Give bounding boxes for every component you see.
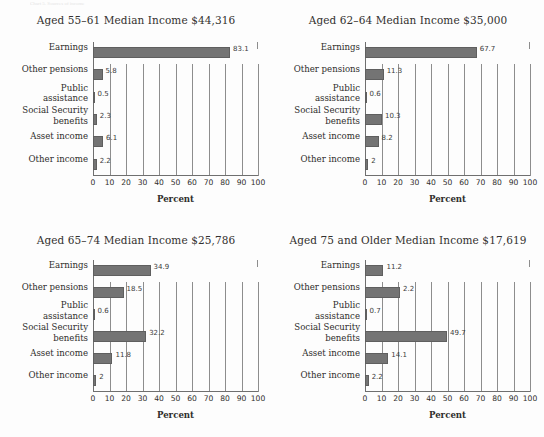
x-tick-label: 70 (204, 178, 214, 187)
frame-top-cap (257, 42, 258, 49)
x-tick-label: 100 (251, 394, 266, 403)
x-tick-label: 0 (91, 178, 96, 187)
bar-row: Asset income6.1 (93, 131, 258, 153)
axis-baseline (365, 175, 530, 176)
category-label: Social Securitybenefits (0, 322, 88, 343)
x-tick-label: 10 (377, 178, 387, 187)
bar-value-label: 0.6 (369, 90, 380, 98)
x-axis-ticks: 0102030405060708090100 (93, 178, 258, 190)
category-label: Social Securitybenefits (0, 105, 88, 126)
bar-row: Social Securitybenefits10.3 (365, 109, 530, 131)
bar-row: Earnings11.2 (365, 260, 530, 282)
x-tick-label: 10 (377, 394, 387, 403)
plot-area: Earnings83.1Other pensions5.8Publicassis… (93, 42, 258, 176)
frame-top-cap (257, 260, 258, 267)
x-tick-label: 50 (171, 178, 181, 187)
chart-panel-aged-62-64: Aged 62–64 Median Income $35,000 Earning… (272, 0, 544, 220)
x-tick-label: 90 (509, 178, 519, 187)
bar-row: Social Securitybenefits49.7 (365, 326, 530, 348)
bar-value-label: 0.5 (97, 90, 108, 98)
category-label: Publicassistance (268, 83, 360, 104)
x-tick-label: 80 (220, 394, 230, 403)
gridline-100 (530, 282, 531, 392)
bar-rows: Earnings11.2Other pensions2.2Publicassis… (365, 260, 530, 392)
chart-title: Aged 55–61 Median Income $44,316 (0, 14, 272, 26)
category-label: Other pensions (268, 282, 360, 293)
bar-row: Other income2.2 (93, 154, 258, 176)
bar-row: Earnings67.7 (365, 42, 530, 64)
bar-value-label: 0.7 (369, 307, 380, 315)
x-tick-label: 90 (237, 394, 247, 403)
bar-value-label: 11.3 (387, 67, 403, 75)
chart-grid: Aged 55–61 Median Income $44,316 Earning… (0, 0, 544, 437)
frame-top-cap (529, 42, 530, 49)
chart-title: Aged 65–74 Median Income $25,786 (0, 234, 272, 246)
x-tick-label: 60 (187, 394, 197, 403)
category-label: Other income (0, 154, 88, 165)
bar-value-label: 49.7 (450, 329, 466, 337)
bar-rows: Earnings34.9Other pensions18.5Publicassi… (93, 260, 258, 392)
x-tick-label: 20 (121, 178, 131, 187)
bar (365, 114, 382, 125)
x-tick-label: 80 (220, 178, 230, 187)
category-label: Other income (0, 370, 88, 381)
bar (365, 92, 367, 103)
x-tick-label: 90 (509, 394, 519, 403)
x-tick-label: 70 (204, 394, 214, 403)
x-tick-label: 100 (251, 178, 266, 187)
x-tick-label: 70 (476, 178, 486, 187)
bar-row: Other income2 (93, 370, 258, 392)
bar-value-label: 18.5 (127, 285, 143, 293)
bar-value-label: 10.3 (385, 112, 401, 120)
x-axis-title: Percent (365, 410, 530, 420)
category-label: Other income (268, 370, 360, 381)
x-tick-label: 60 (459, 394, 469, 403)
category-label: Earnings (0, 42, 88, 53)
bar-value-label: 8.2 (382, 134, 393, 142)
bar-row: Publicassistance0.6 (365, 87, 530, 109)
bar (365, 353, 388, 364)
x-tick-label: 80 (492, 178, 502, 187)
x-tick-label: 30 (410, 394, 420, 403)
x-axis-title: Percent (93, 410, 258, 420)
x-tick-label: 10 (105, 394, 115, 403)
x-tick-label: 20 (121, 394, 131, 403)
category-label: Social Securitybenefits (268, 105, 360, 126)
bar-value-label: 2.2 (372, 373, 383, 381)
bar-row: Other income2 (365, 154, 530, 176)
x-tick-label: 50 (171, 394, 181, 403)
bar-value-label: 2 (99, 373, 103, 381)
x-axis-ticks: 0102030405060708090100 (365, 394, 530, 406)
bar (365, 287, 400, 298)
x-axis-title: Percent (365, 194, 530, 204)
bar-value-label: 2.2 (403, 285, 414, 293)
x-axis-title: Percent (93, 194, 258, 204)
bar-value-label: 83.1 (233, 45, 249, 53)
x-tick-label: 100 (523, 178, 538, 187)
x-tick-label: 50 (443, 178, 453, 187)
bar (93, 159, 97, 170)
bar (93, 331, 146, 342)
category-label: Asset income (0, 348, 88, 359)
category-label: Other income (268, 154, 360, 165)
bar (365, 265, 383, 276)
chart-panel-aged-75-older: Aged 75 and Older Median Income $17,619 … (272, 220, 544, 437)
category-label: Other pensions (268, 64, 360, 75)
x-tick-label: 40 (426, 394, 436, 403)
bar-rows: Earnings67.7Other pensions11.3Publicassi… (365, 42, 530, 176)
category-label: Other pensions (0, 282, 88, 293)
bar-row: Earnings34.9 (93, 260, 258, 282)
bar-value-label: 14.1 (391, 351, 407, 359)
plot-area: Earnings11.2Other pensions2.2Publicassis… (365, 260, 530, 392)
bar-row: Publicassistance0.6 (93, 304, 258, 326)
bar (93, 69, 103, 80)
bar-value-label: 67.7 (480, 45, 496, 53)
category-label: Publicassistance (0, 300, 88, 321)
x-tick-label: 30 (138, 394, 148, 403)
category-label: Asset income (268, 348, 360, 359)
bar-row: Asset income8.2 (365, 131, 530, 153)
bar-value-label: 32.2 (149, 329, 165, 337)
category-label: Publicassistance (0, 83, 88, 104)
chart-panel-aged-55-61: Aged 55–61 Median Income $44,316 Earning… (0, 0, 272, 220)
x-axis-ticks: 0102030405060708090100 (93, 394, 258, 406)
